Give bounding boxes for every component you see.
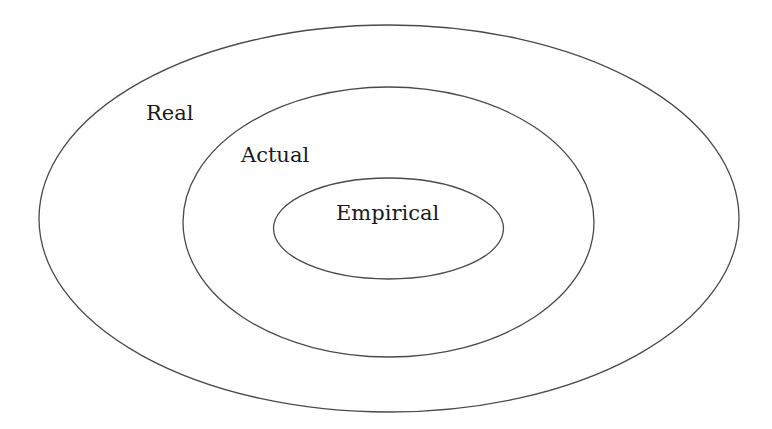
empirical-label: Empirical bbox=[336, 201, 439, 225]
real-label: Real bbox=[146, 101, 194, 125]
nested-domains-diagram: Real Actual Empirical bbox=[0, 0, 772, 429]
empirical-domain-ellipse bbox=[274, 178, 504, 279]
actual-label: Actual bbox=[240, 143, 309, 167]
